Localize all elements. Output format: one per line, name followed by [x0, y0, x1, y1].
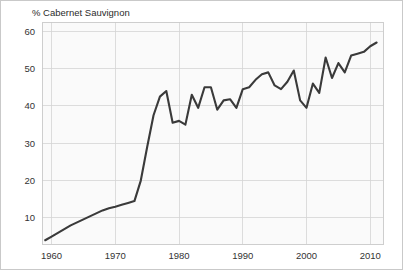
line-chart: 102030405060196019701980199020002010% Ca…: [1, 1, 403, 270]
y-tick-label-50: 50: [24, 63, 35, 74]
chart-title: % Cabernet Sauvignon: [32, 7, 130, 18]
y-tick-label-60: 60: [24, 26, 35, 37]
y-tick-label-10: 10: [24, 212, 35, 223]
x-tick-label-1980: 1980: [168, 250, 189, 261]
x-tick-label-1990: 1990: [232, 250, 253, 261]
chart-figure: 102030405060196019701980199020002010% Ca…: [0, 0, 403, 270]
y-tick-label-30: 30: [24, 138, 35, 149]
x-tick-label-2010: 2010: [360, 250, 381, 261]
plot-area-background: [42, 22, 383, 244]
y-tick-label-20: 20: [24, 175, 35, 186]
y-tick-label-40: 40: [24, 100, 35, 111]
x-tick-label-1960: 1960: [41, 250, 62, 261]
x-tick-label-2000: 2000: [296, 250, 317, 261]
x-tick-label-1970: 1970: [105, 250, 126, 261]
